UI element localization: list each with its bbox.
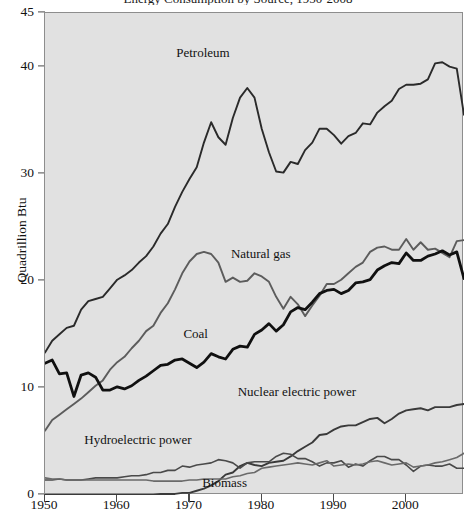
y-tick-label: 0	[0, 486, 34, 502]
series-line-nuclear-electric-power	[45, 404, 464, 495]
series-label-nuclear-electric-power: Nuclear electric power	[238, 384, 356, 400]
y-tick-label: 20	[0, 272, 34, 288]
y-tick-label: 40	[0, 58, 34, 74]
x-tick-mark	[405, 494, 406, 502]
series-label-hydroelectric-power: Hydroelectric power	[84, 432, 191, 448]
series-label-natural-gas: Natural gas	[231, 246, 291, 262]
series-label-coal: Coal	[183, 326, 208, 342]
y-tick-label: 30	[0, 165, 34, 181]
y-tick-label: 10	[0, 379, 34, 395]
series-line-biomass	[45, 453, 464, 481]
chart-container: Energy Consumption by Source, 1950-2008 …	[0, 0, 476, 516]
y-tick-label: 45	[0, 4, 34, 20]
x-tick-mark	[116, 494, 117, 502]
y-axis-label: Quadrillion Btu	[14, 170, 30, 310]
x-tick-mark	[44, 494, 45, 502]
series-label-petroleum: Petroleum	[176, 45, 229, 61]
x-tick-mark	[188, 494, 189, 502]
y-axis: Quadrillion Btu 01020304045	[0, 0, 44, 516]
series-line-hydroelectric-power	[45, 453, 464, 480]
series-label-biomass: Biomass	[202, 475, 247, 491]
chart-title: Energy Consumption by Source, 1950-2008	[0, 0, 476, 5]
x-tick-mark	[261, 494, 262, 502]
x-tick-mark	[333, 494, 334, 502]
series-line-petroleum	[45, 62, 464, 352]
